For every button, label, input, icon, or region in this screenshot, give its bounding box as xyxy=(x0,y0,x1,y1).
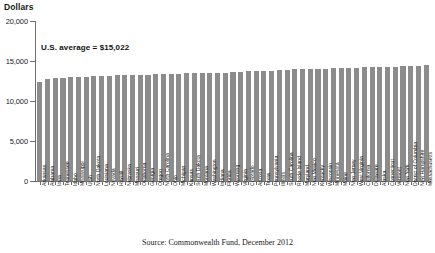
y-axis-tick-label: 10,000 xyxy=(0,97,28,106)
x-axis-category-label: New York xyxy=(405,164,410,186)
x-axis-category-label: California xyxy=(366,165,371,186)
x-axis-category-label: Colorado xyxy=(250,165,255,186)
x-axis-category-label: Hawaii xyxy=(119,171,124,186)
x-axis-category-label: West Virginia xyxy=(359,156,364,186)
x-axis-category-label: Georgia xyxy=(150,168,155,186)
x-axis-category-label: Washington xyxy=(212,159,217,186)
x-axis-category-label: Oklahoma xyxy=(142,163,147,186)
x-axis-category-label: Missouri xyxy=(135,167,140,186)
x-axis-category-label: Connecticut xyxy=(390,159,395,186)
health-insurance-premium-bar-chart: Dollars 20,00015,00010,0005,0000 Arkansa… xyxy=(0,0,435,253)
x-axis-category-label: Utah xyxy=(88,175,93,186)
x-axis-category-label: Arizona xyxy=(258,169,263,186)
y-axis-tick xyxy=(30,101,35,102)
x-axis-category-label: New Hampshire xyxy=(420,150,425,186)
x-axis-category-label: Texas xyxy=(266,173,271,186)
y-axis-tick xyxy=(30,141,35,142)
x-axis-category-label: Michigan xyxy=(181,166,186,186)
bar xyxy=(223,73,228,181)
x-axis-category-label: Virginia xyxy=(243,169,248,186)
x-axis-category-label: Alabama xyxy=(50,166,55,186)
x-axis-category-label: Pennsylvania xyxy=(274,156,279,186)
x-axis-category-label: Indiana xyxy=(220,169,225,186)
x-axis-category-label: Arkansas xyxy=(42,165,47,186)
x-axis-category-label: Illinois xyxy=(281,172,286,186)
x-axis-category-label: Alaska xyxy=(382,171,387,186)
x-axis-category-label: Florida xyxy=(227,170,232,186)
x-axis-category-label: Wisconsin xyxy=(328,163,333,186)
x-axis-category-label: Louisiana xyxy=(104,164,109,186)
us-average-annotation: U.S. average = $15,022 xyxy=(41,43,129,52)
y-axis-tick-label: 0 xyxy=(0,177,28,186)
x-axis-category-label: Idaho xyxy=(73,173,78,186)
x-axis-category-label: Oregon xyxy=(158,169,163,186)
x-axis-category-label: New Mexico xyxy=(312,158,317,186)
x-axis-category-label: Minnesota xyxy=(335,163,340,186)
x-axis-category-label: Nebraska xyxy=(127,164,132,186)
y-axis-tick-label: 20,000 xyxy=(0,17,28,26)
x-axis-category-label: Tennessee xyxy=(65,161,70,186)
y-axis-tick xyxy=(30,61,35,62)
x-axis-category-label: Kentucky xyxy=(320,165,325,186)
x-axis-category-label: Nevada xyxy=(111,168,116,186)
x-axis-category-label: Wyoming xyxy=(235,165,240,186)
y-axis-tick-label: 5,000 xyxy=(0,137,28,146)
y-axis-tick-label: 15,000 xyxy=(0,57,28,66)
x-axis-category-label: South Carolina xyxy=(289,152,294,186)
x-axis-category-label: Rhode Island xyxy=(297,156,302,186)
x-axis-category-label: Kansas xyxy=(189,169,194,186)
bar xyxy=(115,75,120,181)
bar xyxy=(153,74,158,181)
y-axis-title: Dollars xyxy=(4,2,34,12)
x-axis-category-label: Delaware xyxy=(374,164,379,186)
x-axis-category-label: Massachusetts xyxy=(428,152,433,186)
x-axis-category-label: Iowa xyxy=(57,175,62,186)
x-axis-category-label: New Jersey xyxy=(351,159,356,186)
y-axis-tick xyxy=(30,181,35,182)
x-axis-category-label: Mississippi xyxy=(80,161,85,186)
x-axis-category-label: Vermont xyxy=(397,167,402,186)
y-axis-tick xyxy=(30,21,35,22)
bar xyxy=(261,71,266,181)
x-axis-category-label: Maryland xyxy=(305,165,310,186)
x-axis-category-label: Ohio xyxy=(173,175,178,186)
x-axis-category-label: North Dakota xyxy=(96,156,101,186)
x-axis-category-label: North Carolina xyxy=(165,153,170,186)
x-axis-category-label: Maine xyxy=(343,172,348,186)
x-axis-category-label: South Dakota xyxy=(196,155,201,186)
x-axis-category-label: Montana xyxy=(204,166,209,186)
x-axis-category-label: District of Columbia xyxy=(413,142,418,186)
source-note: Source: Commonwealth Fund, December 2012 xyxy=(0,238,435,247)
